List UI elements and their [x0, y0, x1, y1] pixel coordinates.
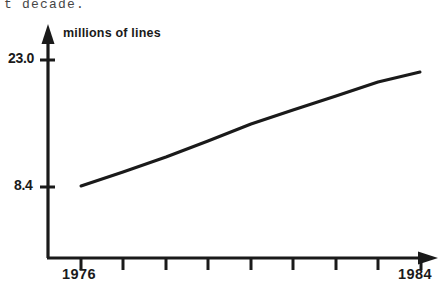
data-line-series-1	[81, 72, 420, 186]
y-tick-label-top: 23.0	[8, 50, 34, 66]
chart-canvas	[0, 0, 441, 297]
arrow-up-icon	[42, 24, 55, 44]
line-chart-figure: t decade. mil	[0, 0, 441, 297]
x-tick-label-start: 1976	[62, 266, 96, 282]
x-tick-label-end: 1984	[398, 266, 432, 282]
axes-group	[42, 24, 439, 265]
y-axis-title: millions of lines	[63, 26, 161, 40]
y-tick-label-bottom: 8.4	[14, 177, 33, 193]
x-axis-ticks	[81, 258, 421, 270]
